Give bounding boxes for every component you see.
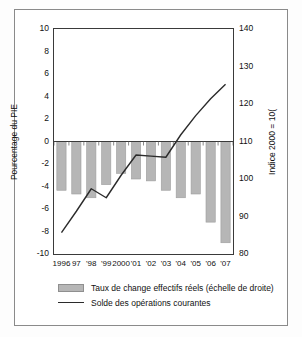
y-axis-left-title: Pourcentage du PIE — [9, 103, 19, 179]
bar — [176, 142, 185, 198]
bar — [221, 142, 230, 243]
y-tick-left: -4 — [23, 181, 49, 191]
y-tick-left: 6 — [23, 68, 49, 78]
bar — [191, 142, 200, 195]
line-swatch-icon — [58, 299, 84, 307]
legend-item-line: Solde des opérations courantes — [14, 298, 288, 308]
y-tick-left: 10 — [23, 23, 49, 33]
y-axis-right-title: Indice 2000 = 10( — [267, 109, 277, 175]
bar — [57, 142, 66, 191]
y-tick-left: 2 — [23, 113, 49, 123]
y-tick-left: 8 — [23, 46, 49, 56]
chart-legend: Taux de change effectifs réels (échelle … — [14, 283, 288, 313]
y-tick-right: 100 — [239, 173, 265, 183]
x-tick-label: '07 — [211, 259, 241, 268]
legend-label-bars: Taux de change effectifs réels (échelle … — [91, 283, 274, 293]
plot-svg — [54, 29, 233, 254]
y-tick-left: 0 — [23, 136, 49, 146]
y-tick-left: 4 — [23, 91, 49, 101]
bar — [102, 142, 111, 185]
line-series — [61, 84, 225, 233]
y-tick-right: 90 — [239, 211, 265, 221]
y-axis-right-title-wrap: Indice 2000 = 10( — [262, 28, 284, 255]
plot-area — [53, 28, 234, 255]
bar — [72, 142, 81, 195]
y-tick-left: -8 — [23, 226, 49, 236]
chart-figure: Pourcentage du PIE Indice 2000 = 10( 108… — [0, 0, 302, 337]
y-tick-right: 80 — [239, 248, 265, 258]
legend-label-line: Solde des opérations courantes — [91, 298, 211, 308]
bar — [161, 142, 170, 191]
y-tick-right: 140 — [239, 23, 265, 33]
bar — [206, 142, 215, 223]
bar — [146, 142, 155, 181]
y-tick-right: 120 — [239, 98, 265, 108]
y-tick-left: -6 — [23, 203, 49, 213]
y-tick-left: -10 — [23, 248, 49, 258]
legend-item-bars: Taux de change effectifs réels (échelle … — [14, 283, 288, 293]
bar-swatch-icon — [58, 284, 84, 292]
y-tick-left: -2 — [23, 158, 49, 168]
bar — [117, 142, 126, 174]
y-tick-right: 110 — [239, 136, 265, 146]
y-tick-right: 130 — [239, 61, 265, 71]
